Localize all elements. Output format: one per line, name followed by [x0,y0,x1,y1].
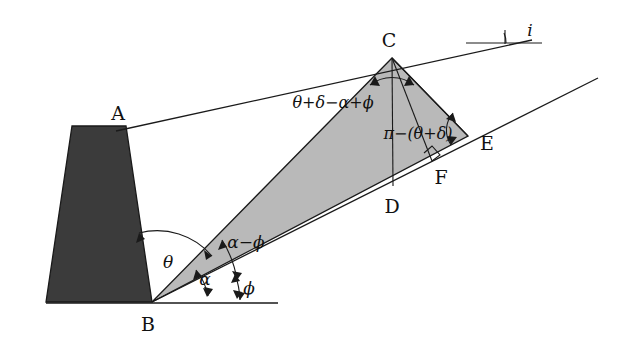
point-label-D: D [384,195,399,217]
point-label-F: F [434,166,447,188]
dam-body [46,126,152,302]
point-label-A: A [110,102,125,124]
point-label-B: B [141,313,155,335]
angle-label-alpha: α [199,269,211,289]
angle-label-phi: ϕ [243,278,255,298]
geometry-figure: A B C D E F θ α ϕ α−ϕ i θ+δ−α+ϕ π−(θ+δ) [0,0,633,347]
diagram-canvas: A B C D E F θ α ϕ α−ϕ i θ+δ−α+ϕ π−(θ+δ) [0,0,633,347]
angle-label-C-apex: θ+δ−α+ϕ [292,93,373,112]
angle-label-E: π−(θ+δ) [382,124,452,143]
point-label-E: E [480,132,494,154]
upper-slope-line [116,40,532,131]
angle-label-theta: θ [163,252,173,272]
angle-label-alpha-minus-phi: α−ϕ [227,232,265,252]
angle-label-incline-i: i [527,20,532,40]
point-label-C: C [382,29,397,51]
